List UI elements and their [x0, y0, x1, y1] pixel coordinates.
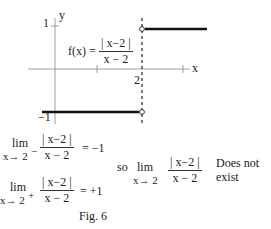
function-denominator: x − 2 [99, 51, 133, 67]
conclusion-text-2: exist [216, 170, 239, 185]
function-lhs: f(x) = [68, 44, 96, 59]
y-tick-label-top: 1 [43, 16, 49, 31]
left-limit-fraction: | x−2 | x − 2 [40, 132, 74, 163]
open-circle-top [140, 27, 145, 32]
conclusion-so: so [117, 160, 128, 175]
figure-caption: Fig. 6 [79, 209, 107, 224]
y-axis-label: y [59, 8, 65, 23]
open-circle-bottom [140, 110, 145, 115]
left-limit-result: = −1 [82, 141, 105, 156]
left-limit-sub: x→ 2 [3, 150, 28, 162]
x-tick-label-2: 2 [134, 73, 140, 88]
x-axis-label: x [192, 61, 198, 76]
right-limit-result: = +1 [80, 184, 103, 199]
right-limit-sup: + [28, 189, 34, 201]
left-limit-lim: lim [12, 136, 28, 151]
right-limit-sub: x→ 2 [0, 194, 25, 206]
function-fraction: | x−2 | x − 2 [99, 36, 133, 67]
left-limit-sup: − [31, 145, 37, 157]
conclusion-lim: lim [137, 160, 153, 175]
left-limit-numerator: | x−2 | [40, 132, 74, 147]
conclusion-text-1: Does not [216, 156, 259, 171]
right-limit-denominator: x − 2 [40, 190, 74, 206]
right-limit-lim: lim [10, 180, 26, 195]
y-tick-label-bottom: −1 [38, 110, 51, 125]
right-limit-numerator: | x−2 | [40, 175, 74, 190]
conclusion-denominator: x − 2 [168, 170, 202, 186]
conclusion-sub: x→ 2 [133, 174, 158, 186]
right-limit-fraction: | x−2 | x − 2 [40, 175, 74, 206]
conclusion-numerator: | x−2 | [168, 155, 202, 170]
conclusion-fraction: | x−2 | x − 2 [168, 155, 202, 186]
left-limit-denominator: x − 2 [40, 147, 74, 163]
function-numerator: | x−2 | [99, 36, 133, 51]
